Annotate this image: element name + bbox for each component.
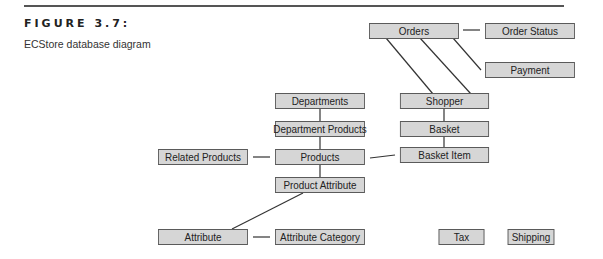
- table-products: Products: [275, 149, 365, 165]
- link-productattribute-attribute: [232, 193, 303, 229]
- table-departments: Departments: [275, 93, 365, 109]
- table-basket: Basket: [400, 121, 489, 137]
- table-tax: Tax: [439, 229, 485, 245]
- table-shipping: Shipping: [508, 229, 555, 245]
- table-department-products: Department Products: [275, 121, 365, 137]
- table-basket-item: Basket Item: [400, 147, 489, 163]
- table-orders: Orders: [369, 23, 459, 39]
- link-products-basketitem: [370, 155, 395, 158]
- link-orders-shopper-2: [420, 38, 471, 94]
- table-shopper: Shopper: [400, 93, 489, 109]
- table-payment: Payment: [485, 62, 575, 78]
- table-attribute-category: Attribute Category: [275, 229, 365, 245]
- link-orders-shopper-1: [386, 38, 433, 94]
- table-related-products: Related Products: [158, 149, 248, 165]
- table-order-status: Order Status: [485, 23, 575, 39]
- link-orders-payment: [453, 38, 481, 70]
- table-attribute: Attribute: [158, 229, 248, 245]
- table-product-attribute: Product Attribute: [275, 177, 365, 193]
